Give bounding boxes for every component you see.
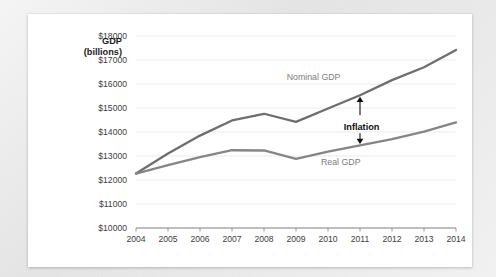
inflation-arrow [357,97,364,144]
y-tick-label: $10000 [98,223,127,233]
y-axis-title: GDP (billions) [50,36,122,58]
x-axis-tick-labels: 2004200520062007200820092010201120122013… [126,234,465,244]
x-tick-label: 2006 [190,234,209,244]
series-line [136,122,456,173]
x-axis-ticks [136,228,456,232]
y-axis-tick-labels: $10000$11000$12000$13000$14000$15000$160… [98,31,127,233]
y-tick-label: $13000 [98,151,127,161]
y-tick-label: $14000 [98,127,127,137]
annotation-label: Inflation [344,122,380,132]
y-axis-title-line1: GDP [50,36,122,47]
x-tick-label: 2008 [254,234,273,244]
chart-card: $10000$11000$12000$13000$14000$15000$160… [28,14,472,267]
x-tick-label: 2013 [414,234,433,244]
x-tick-label: 2010 [318,234,337,244]
x-tick-label: 2004 [126,234,145,244]
x-tick-label: 2014 [446,234,465,244]
x-tick-label: 2012 [382,234,401,244]
y-tick-label: $11000 [99,199,127,209]
x-tick-label: 2011 [351,234,370,244]
series-line [136,50,456,174]
x-tick-label: 2007 [222,234,241,244]
x-tick-label: 2009 [286,234,305,244]
data-series-lines [136,50,456,174]
y-tick-label: $16000 [98,79,127,89]
y-axis-title-line2: (billions) [50,47,122,58]
annotation-label: Real GDP [321,157,361,167]
grid-lines [136,36,456,228]
x-tick-label: 2005 [158,234,177,244]
y-tick-label: $15000 [98,103,127,113]
y-tick-label: $12000 [98,175,127,185]
annotation-label: Nominal GDP [287,72,341,82]
